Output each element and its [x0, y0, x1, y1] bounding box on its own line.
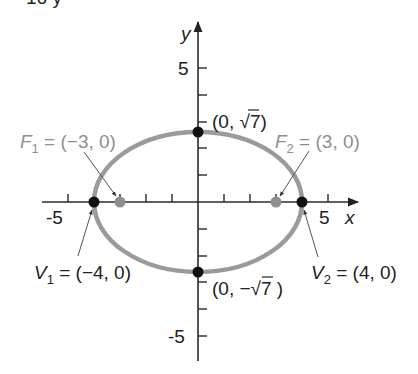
x-tick-label-5: 5 [319, 207, 330, 228]
f1-label: F1 = (−3, 0) [20, 131, 116, 156]
vertex-v2-point [297, 197, 308, 208]
bottom-intercept-point [193, 267, 204, 278]
ellipse-diagram: 16 y -5 5 5 -5 x y [0, 0, 418, 374]
y-axis-label: y [179, 23, 192, 44]
y-tick-label-neg5: -5 [168, 326, 185, 347]
vertex-v1-point [89, 197, 100, 208]
v2-leader [304, 210, 318, 257]
y-tick-label-5: 5 [178, 58, 189, 79]
v1-label: V1 = (−4, 0) [34, 262, 131, 287]
top-intercept-label: (0, √7) [212, 111, 267, 132]
v1-leader [78, 210, 92, 256]
focus-f1-point [115, 197, 126, 208]
f2-label: F2 = (3, 0) [275, 131, 360, 156]
bottom-intercept-label: (0, −√7 ) [212, 278, 283, 299]
x-tick-label-neg5: -5 [46, 207, 63, 228]
x-axis-label: x [344, 207, 356, 228]
f2-leader [280, 151, 309, 196]
f1-leader [84, 152, 116, 196]
top-intercept-point [193, 127, 204, 138]
v2-label: V2 = (4, 0) [311, 262, 397, 287]
header-fragment: 16 y [26, 0, 62, 8]
focus-f2-point [271, 197, 282, 208]
